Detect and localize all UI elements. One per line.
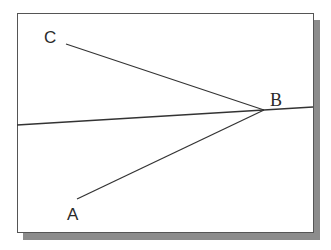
diagram-canvas: C B A: [0, 0, 331, 250]
frame-shadow-bottom: [23, 233, 320, 240]
diagram-frame: [18, 14, 314, 233]
point-label-b: B: [270, 91, 282, 109]
frame-shadow-right: [314, 20, 320, 240]
point-label-a: A: [67, 206, 78, 223]
point-label-c: C: [44, 29, 56, 46]
